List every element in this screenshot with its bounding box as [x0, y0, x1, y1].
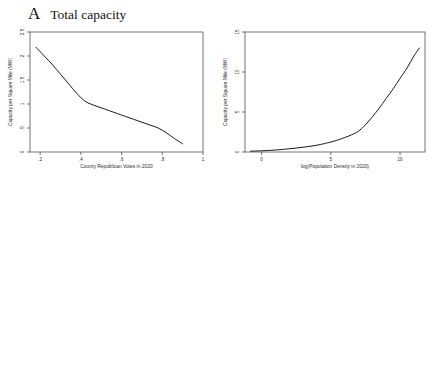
panel-a-title: Total capacity	[50, 7, 126, 23]
plot-frame	[30, 32, 203, 152]
plot-a-left: 0.511.522.5.2.4.6.81County Republican Vo…	[4, 26, 209, 176]
x-tick-label: 1	[202, 157, 205, 162]
y-tick-label: 1	[20, 102, 25, 105]
x-tick-label: .6	[120, 157, 124, 162]
x-tick-label: 5	[330, 157, 333, 162]
y-tick-label: 0	[235, 150, 240, 153]
figure-canvas: ATotal capacity 0.511.522.5.2.4.6.81Coun…	[0, 0, 435, 369]
y-axis-title: Capacity per Square Mile (MW)	[223, 58, 228, 127]
y-tick-label: 1.5	[20, 76, 25, 83]
y-tick-label: 2.5	[20, 28, 25, 35]
y-tick-label: 2	[20, 54, 25, 57]
panel-row-b: BGreen capacity 0.02.04.06.08.2.4.6.81Co…	[0, 185, 435, 369]
x-axis-title: County Republican Votes in 2020	[80, 164, 153, 169]
y-tick-label: 15	[235, 29, 240, 35]
panel-row-a: ATotal capacity 0.511.522.5.2.4.6.81Coun…	[0, 0, 435, 185]
x-tick-label: .8	[160, 157, 164, 162]
x-tick-label: 0	[260, 157, 263, 162]
y-tick-label: 0	[20, 150, 25, 153]
chart-total-capacity-by-population-density: 0510150510log(Population Density in 2020…	[219, 26, 431, 176]
y-tick-label: 5	[235, 110, 240, 113]
x-tick-label: .4	[79, 157, 83, 162]
x-axis-title: log(Population Density in 2020)	[301, 164, 369, 169]
y-axis-title: Capacity per Square Mile (MW)	[8, 58, 13, 127]
x-tick-label: 10	[398, 157, 404, 162]
panel-a-heading: ATotal capacity	[28, 4, 126, 24]
y-tick-label: 10	[235, 69, 240, 75]
plot-a-right: 0510150510log(Population Density in 2020…	[219, 26, 431, 176]
y-tick-label: .5	[20, 126, 25, 130]
chart-total-capacity-by-republican-votes: 0.511.522.5.2.4.6.81County Republican Vo…	[4, 26, 209, 176]
x-tick-label: .2	[38, 157, 42, 162]
panel-a-letter: A	[28, 4, 40, 24]
plot-frame	[245, 32, 425, 152]
